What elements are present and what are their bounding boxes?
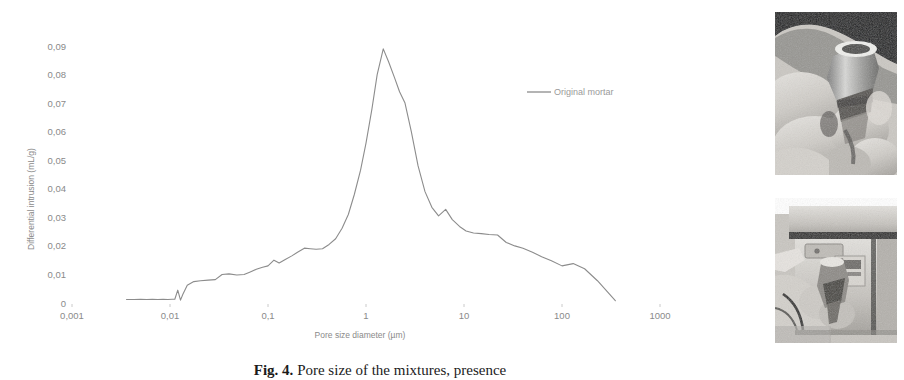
y-tick-4: 0,04	[48, 183, 67, 194]
figure-page: 00,010,020,030,040,050,060,070,080,09 0,…	[0, 0, 904, 380]
x-tick-6: 1000	[649, 310, 670, 321]
y-tick-0: 0	[61, 298, 66, 309]
legend-label-original-mortar: Original mortar	[554, 87, 614, 97]
chart-figure: 00,010,020,030,040,050,060,070,080,09 0,…	[0, 0, 760, 355]
x-axis-title: Pore size diameter (µm)	[315, 330, 406, 340]
series-line-original-mortar	[127, 49, 616, 301]
y-tick-9: 0,09	[48, 41, 67, 52]
x-tick-1: 0,01	[161, 310, 180, 321]
y-tick-1: 0,01	[48, 269, 67, 280]
y-axis-title: Differential intrusion (mL/g)	[26, 148, 36, 250]
y-tick-8: 0,08	[48, 69, 67, 80]
y-tick-6: 0,06	[48, 126, 67, 137]
x-axis-tick-marks	[72, 304, 660, 307]
photo-penetrometer-in-porosimeter	[775, 198, 897, 343]
y-tick-3: 0,03	[48, 212, 67, 223]
photo-penetrometer-in-hand	[775, 12, 897, 175]
x-tick-5: 100	[554, 310, 570, 321]
figure-caption: Fig. 4. Pore size of the mixtures, prese…	[0, 360, 760, 380]
y-tick-2: 0,02	[48, 240, 67, 251]
pore-size-distribution-chart: 00,010,020,030,040,050,060,070,080,09 0,…	[0, 0, 760, 355]
x-tick-0: 0,001	[60, 310, 84, 321]
y-axis-tick-labels: 00,010,020,030,040,050,060,070,080,09	[48, 41, 67, 309]
chart-legend: Original mortar	[527, 87, 614, 97]
y-tick-7: 0,07	[48, 98, 67, 109]
caption-figure-number: Fig. 4.	[254, 362, 294, 378]
x-tick-2: 0,1	[261, 310, 274, 321]
x-tick-4: 10	[459, 310, 470, 321]
y-tick-5: 0,05	[48, 155, 67, 166]
x-axis-tick-labels: 0,0010,010,11101001000	[60, 310, 670, 321]
x-tick-3: 1	[363, 310, 368, 321]
caption-body: Pore size of the mixtures, presence	[297, 362, 506, 378]
